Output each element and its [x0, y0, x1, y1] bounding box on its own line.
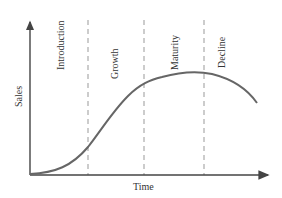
stage-label-decline: Decline	[216, 36, 227, 68]
stage-label-introduction: Introduction	[55, 21, 66, 70]
x-axis-label: Time	[133, 181, 154, 192]
y-axis-label: Sales	[13, 86, 24, 107]
stage-label-maturity: Maturity	[169, 35, 180, 70]
stage-label-growth: Growth	[109, 48, 120, 79]
product-life-cycle-diagram: Introduction Growth Maturity Decline Sal…	[0, 0, 282, 198]
